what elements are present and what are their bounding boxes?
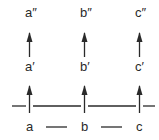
lower-arrows xyxy=(27,85,143,113)
label-b-double-prime: b″ xyxy=(80,6,92,20)
label-b-prime: b′ xyxy=(80,60,90,74)
label-b: b xyxy=(81,120,88,134)
label-a-prime: a′ xyxy=(25,60,35,74)
label-a-double-prime: a″ xyxy=(25,6,37,20)
upper-arrows xyxy=(27,32,143,57)
label-a: a xyxy=(26,120,33,134)
label-c: c xyxy=(136,120,143,134)
label-c-prime: c′ xyxy=(135,60,144,74)
label-c-double-prime: c″ xyxy=(135,6,146,20)
